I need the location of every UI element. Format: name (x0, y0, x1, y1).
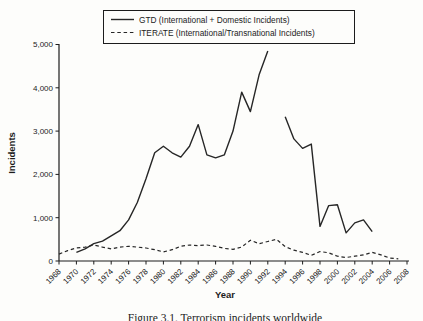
x-tick-label: 1980 (148, 267, 167, 286)
x-tick-label: 2008 (392, 267, 411, 286)
x-tick-label: 1988 (218, 267, 237, 286)
y-tick-label: 0 (49, 257, 54, 266)
x-tick-label: 2004 (357, 267, 376, 286)
x-tick-label: 1976 (114, 267, 133, 286)
x-tick-label: 1986 (201, 267, 220, 286)
x-tick-label: 1984 (183, 267, 202, 286)
x-tick-label: 1972 (79, 267, 98, 286)
x-tick-label: 1990 (235, 267, 254, 286)
x-tick-label: 1974 (96, 267, 115, 286)
x-tick-label: 1996 (288, 267, 307, 286)
x-tick-label: 1998 (305, 267, 324, 286)
x-tick-label: 1982 (166, 267, 185, 286)
iterate-series-line (59, 239, 398, 258)
figure-caption: Figure 3.1. Terrorism incidents worldwid… (128, 312, 322, 321)
legend-gtd-label: GTD (International + Domestic Incidents) (139, 15, 290, 25)
y-tick-label: 2,000 (33, 170, 54, 179)
x-tick-label: 1992 (253, 267, 272, 286)
x-tick-label: 1978 (131, 267, 150, 286)
series-layer (59, 51, 398, 259)
x-tick-label: 1994 (270, 267, 289, 286)
y-tick-label: 1,000 (33, 214, 54, 223)
x-tick-label: 2006 (375, 267, 394, 286)
legend: GTD (International + Domestic Incidents)… (104, 11, 355, 44)
x-tick-label: 2000 (322, 267, 341, 286)
y-tick-label: 5,000 (33, 40, 54, 49)
y-axis-title: Incidents (6, 132, 17, 174)
x-axis-title: Year (215, 289, 235, 300)
x-tick-label: 1970 (61, 267, 80, 286)
x-tick-label: 1968 (44, 267, 63, 286)
gtd-series-line (76, 51, 372, 252)
terrorism-incidents-chart: 01,0002,0003,0004,0005,00019681970197219… (0, 0, 423, 321)
y-tick-label: 3,000 (33, 127, 54, 136)
axes-layer: 01,0002,0003,0004,0005,00019681970197219… (33, 40, 411, 286)
figure: 01,0002,0003,0004,0005,00019681970197219… (0, 0, 423, 321)
legend-iterate-label: ITERATE (International/Transnational Inc… (139, 28, 315, 38)
x-tick-label: 2002 (340, 267, 359, 286)
y-tick-label: 4,000 (33, 84, 54, 93)
